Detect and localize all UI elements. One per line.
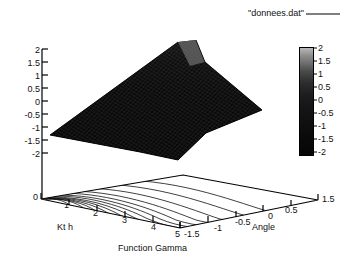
plot-graphics-layer [0,0,346,269]
z-axis [42,49,48,199]
base-plane [41,175,318,228]
colorbar-ticks [314,48,317,152]
gnuplot-surface-figure: "donnees.dat" 2 1.5 1 0.5 0 -0.5 -1 -1.5… [0,0,346,269]
surface-mesh [40,35,275,165]
